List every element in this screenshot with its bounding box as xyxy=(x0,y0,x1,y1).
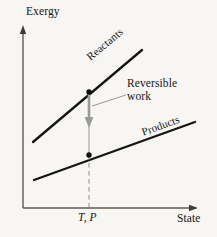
reversible-work-line-2: work xyxy=(127,90,177,103)
reversible-work-leader-line xyxy=(92,95,126,106)
marker-reactants-point xyxy=(86,89,91,94)
reversible-work-annotation: Reversible work xyxy=(127,77,177,103)
y-axis-arrowhead xyxy=(20,25,26,34)
x-axis-tick-label-tp: T, P xyxy=(78,211,97,224)
y-axis-label: Exergy xyxy=(26,5,60,18)
reactants-line xyxy=(33,50,142,142)
products-line xyxy=(34,122,195,180)
x-axis-arrowhead xyxy=(189,205,198,211)
marker-products-point xyxy=(86,152,91,157)
exergy-state-diagram: Exergy State T, P Reactants Products Rev… xyxy=(0,0,217,237)
reversible-work-line-1: Reversible xyxy=(127,77,177,90)
x-axis-label: State xyxy=(177,212,201,225)
